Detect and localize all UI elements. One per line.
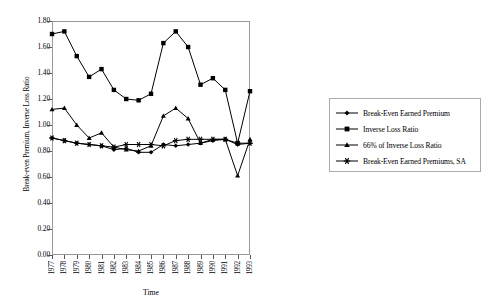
legend-item[interactable]: Break-Even Earned Premiums, SA	[335, 153, 466, 169]
x-axis-tick-mark	[188, 255, 189, 259]
legend-item[interactable]: Break-Even Earned Premium	[335, 105, 450, 121]
series-marker	[198, 83, 202, 87]
series-marker	[149, 150, 154, 155]
x-axis-tick-mark	[64, 255, 65, 259]
series-marker	[186, 142, 191, 147]
series-marker	[112, 88, 116, 92]
series-line	[52, 108, 250, 176]
x-axis-title: Time	[52, 288, 250, 297]
legend-marker-icon	[335, 124, 359, 134]
x-axis-tick-label: 1984	[135, 261, 144, 275]
series-marker	[173, 138, 179, 143]
x-axis-tick-mark	[102, 255, 103, 259]
series-marker	[186, 45, 190, 49]
series-marker	[161, 41, 165, 45]
x-axis-tick-mark	[89, 255, 90, 259]
x-axis-tick-mark	[52, 255, 53, 259]
series-marker	[161, 113, 166, 117]
chart-figure: Break-even Premium, Inverse Loss Ratio 0…	[0, 0, 489, 302]
series-marker	[174, 29, 178, 33]
legend-marker-icon	[335, 108, 359, 118]
x-axis-tick-mark	[238, 255, 239, 259]
series-marker	[149, 92, 153, 96]
chart-plot-container: Break-even Premium, Inverse Loss Ratio 0…	[0, 0, 320, 302]
series-marker	[87, 75, 91, 79]
x-axis-tick-label: 1993	[246, 261, 255, 275]
x-axis-tick-label: 1992	[234, 261, 243, 275]
legend-marker-icon	[335, 156, 359, 166]
series-marker	[136, 142, 142, 147]
series-marker	[99, 130, 104, 134]
series-marker	[211, 76, 215, 80]
chart-legend: Break-Even Earned PremiumInverse Loss Ra…	[329, 98, 481, 172]
x-axis-tick-label: 1980	[85, 261, 94, 275]
x-axis-tick-label: 1985	[147, 261, 156, 275]
x-axis-tick-label: 1986	[159, 261, 168, 275]
legend-item[interactable]: Inverse Loss Ratio	[335, 121, 418, 137]
legend-label: Break-Even Earned Premium	[363, 109, 450, 118]
series-marker	[136, 98, 140, 102]
legend-marker-icon	[335, 140, 359, 150]
x-axis-tick-label: 1982	[110, 261, 119, 275]
series-marker	[62, 29, 66, 33]
series-line	[52, 31, 250, 143]
series-marker	[99, 67, 103, 71]
legend-item[interactable]: 66% of Inverse Loss Ratio	[335, 137, 441, 153]
x-axis-tick-label: 1988	[184, 261, 193, 275]
x-axis-tick-label: 1981	[98, 261, 107, 275]
series-marker	[75, 54, 79, 58]
x-axis-tick-label: 1977	[48, 261, 57, 275]
x-axis-tick-label: 1978	[60, 261, 69, 275]
series-marker	[173, 106, 178, 110]
x-axis-tick-mark	[250, 255, 251, 259]
series-marker	[235, 173, 240, 177]
legend-label: Break-Even Earned Premiums, SA	[363, 157, 466, 166]
x-axis-tick-label: 1991	[221, 261, 230, 275]
x-axis-tick-mark	[126, 255, 127, 259]
x-axis-tick-mark	[176, 255, 177, 259]
data-series	[50, 106, 253, 178]
series-marker	[185, 137, 191, 142]
x-axis-tick-mark	[139, 255, 140, 259]
x-axis-tick-label: 1983	[122, 261, 131, 275]
x-axis-tick-mark	[225, 255, 226, 259]
legend-label: Inverse Loss Ratio	[363, 125, 418, 134]
x-axis-tick-label: 1987	[172, 261, 181, 275]
x-axis-tick-mark	[163, 255, 164, 259]
series-marker	[124, 97, 128, 101]
series-marker	[248, 137, 253, 141]
x-axis-tick-label: 1979	[73, 261, 82, 275]
series-marker	[50, 32, 54, 36]
data-series-layer	[0, 0, 320, 302]
x-axis-tick-mark	[213, 255, 214, 259]
legend-label: 66% of Inverse Loss Ratio	[363, 141, 441, 150]
series-marker	[173, 144, 178, 149]
series-marker	[223, 88, 227, 92]
x-axis-tick-mark	[114, 255, 115, 259]
x-axis-tick-label: 1989	[197, 261, 206, 275]
x-axis-tick-mark	[77, 255, 78, 259]
series-marker	[248, 89, 252, 93]
x-axis-tick-mark	[201, 255, 202, 259]
x-axis-tick-mark	[151, 255, 152, 259]
x-axis-tick-label: 1990	[209, 261, 218, 275]
